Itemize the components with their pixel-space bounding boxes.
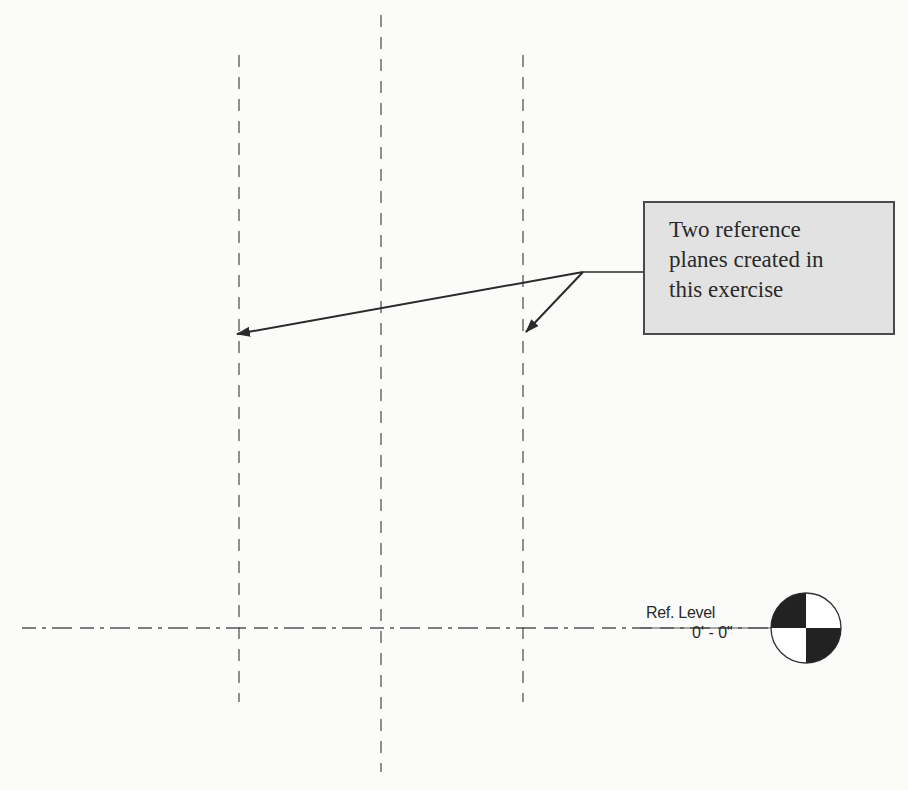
callout-box: Two reference planes created in this exe… [643, 201, 895, 335]
leader-arrow-left [237, 272, 583, 334]
level-elevation-label[interactable]: 0' - 0" [692, 624, 733, 642]
level-name-label[interactable]: Ref. Level [646, 604, 715, 622]
callout-line-2: planes created in [669, 245, 883, 275]
drawing-canvas [0, 0, 908, 790]
level-head-icon[interactable] [771, 593, 841, 663]
callout-line-1: Two reference [669, 215, 883, 245]
callout-line-3: this exercise [669, 275, 883, 305]
